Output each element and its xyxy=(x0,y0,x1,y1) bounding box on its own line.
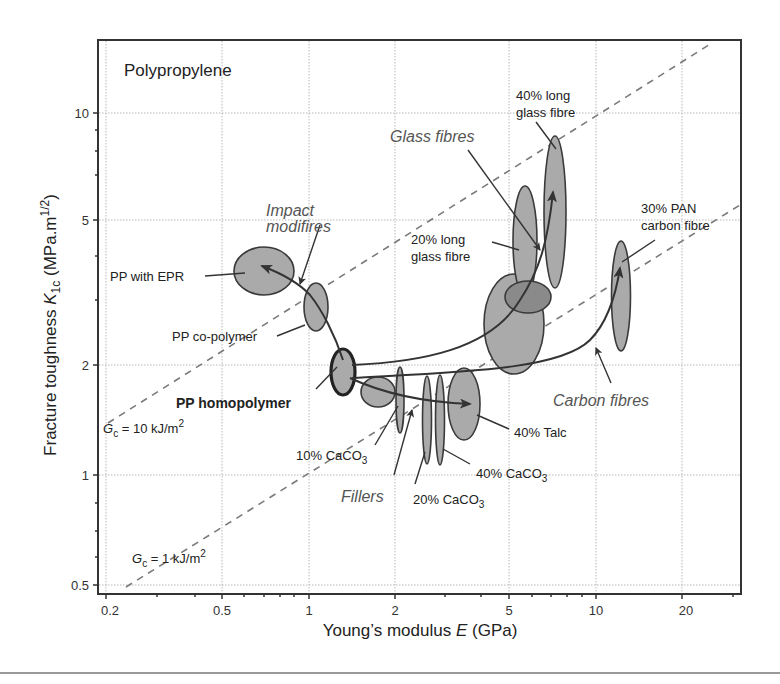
ellipse-pp-epr xyxy=(234,247,294,295)
svg-text:1: 1 xyxy=(82,468,89,483)
svg-text:0.5: 0.5 xyxy=(71,578,89,593)
svg-text:2: 2 xyxy=(82,358,89,373)
label-40-talc: 40% Talc xyxy=(514,425,567,440)
label-fillers: Fillers xyxy=(341,488,384,505)
plot-frame xyxy=(98,40,741,594)
svg-text:2: 2 xyxy=(391,603,398,618)
svg-text:5: 5 xyxy=(82,213,89,228)
label-impact-modifiers: Impactmodifires xyxy=(266,202,331,235)
label-pp-homopolymer: PP homopolymer xyxy=(176,395,291,411)
grid xyxy=(99,41,740,593)
svg-text:1: 1 xyxy=(305,603,312,618)
ellipse-pp-homopolymer xyxy=(331,349,355,395)
label-20-caco3: 20% CaCO3 xyxy=(413,492,485,510)
label-pp-copolymer: PP co-polymer xyxy=(172,329,258,344)
svg-text:10: 10 xyxy=(75,106,89,121)
label-gc-10: Gc = 10 kJ/m2 xyxy=(103,418,184,439)
ellipse-20-caco3 xyxy=(423,376,432,464)
label-carbon-fibres: Carbon fibres xyxy=(553,392,649,409)
svg-text:5: 5 xyxy=(505,603,512,618)
axis-ticks xyxy=(93,113,733,599)
label-glass-fibres: Glass fibres xyxy=(390,128,474,145)
gc-10-line xyxy=(108,43,712,423)
label-40-caco3: 40% CaCO3 xyxy=(476,466,548,484)
label-20-lgf: 20% longglass fibre xyxy=(411,232,470,264)
svg-text:10: 10 xyxy=(589,603,603,618)
ellipse-40-caco3 xyxy=(436,375,445,465)
label-gc-1: Gc = 1 kJ/m2 xyxy=(132,548,206,569)
y-axis-title: Fracture toughness K1c (MPa.m1/2) xyxy=(38,194,63,456)
label-10-caco3: 10% CaCO3 xyxy=(296,448,368,466)
label-pp-epr: PP with EPR xyxy=(110,269,184,284)
svg-text:20: 20 xyxy=(679,603,693,618)
y-tick-labels: 0.5 1 2 5 10 xyxy=(71,106,89,593)
chart-canvas: 0.2 0.5 1 2 5 10 20 0.5 1 2 5 10 Young’s… xyxy=(0,0,780,684)
label-40-lgf: 40% longglass fibre xyxy=(516,88,575,120)
chart-title: Polypropylene xyxy=(124,61,232,80)
svg-text:0.5: 0.5 xyxy=(213,603,231,618)
ellipse-40-lgf xyxy=(544,136,566,288)
x-tick-labels: 0.2 0.5 1 2 5 10 20 xyxy=(101,603,693,618)
label-30-pan: 30% PANcarbon fibre xyxy=(641,201,710,233)
bottom-divider xyxy=(0,672,780,674)
material-ellipses xyxy=(234,136,631,465)
x-axis-title: Young’s modulus E (GPa) xyxy=(323,621,518,640)
svg-text:0.2: 0.2 xyxy=(101,603,119,618)
ellipse-pp-copolymer xyxy=(304,283,328,331)
ellipse-10-caco3-b xyxy=(396,367,404,433)
